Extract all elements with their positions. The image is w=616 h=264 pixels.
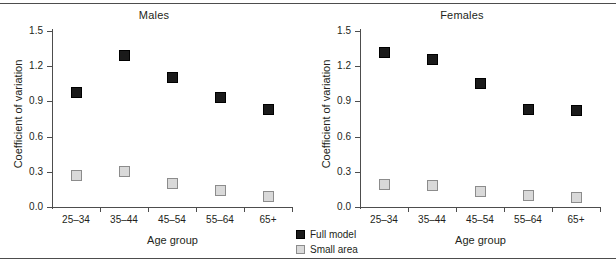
x-tick-label-females-4: 65+ bbox=[552, 214, 600, 225]
data-point-males-small-area-3 bbox=[215, 185, 226, 196]
panel-title-females: Females bbox=[308, 9, 616, 21]
data-point-males-full-model-2 bbox=[167, 72, 178, 83]
x-tick-label-females-0: 25–34 bbox=[360, 214, 408, 225]
plot-area-males bbox=[52, 31, 292, 207]
data-point-males-small-area-2 bbox=[167, 178, 178, 189]
y-tick-females-0 bbox=[355, 207, 360, 208]
legend-label-small-area: Small area bbox=[310, 244, 358, 255]
x-tick-females-5 bbox=[600, 207, 601, 212]
data-point-males-full-model-1 bbox=[119, 50, 130, 61]
filled-square-icon bbox=[296, 230, 305, 239]
data-point-males-full-model-0 bbox=[71, 87, 82, 98]
x-tick-label-males-0: 25–34 bbox=[52, 214, 100, 225]
x-tick-label-females-3: 55–64 bbox=[504, 214, 552, 225]
x-axis-line-males bbox=[52, 207, 293, 208]
legend-item-small-area: Small area bbox=[296, 243, 416, 256]
x-tick-males-4 bbox=[244, 207, 245, 212]
plot-area-females bbox=[360, 31, 600, 207]
x-axis-title-males: Age group bbox=[52, 234, 293, 246]
x-tick-label-females-1: 35–44 bbox=[408, 214, 456, 225]
figure: Males 1.5 1.2 0.9 0.6 0.3 0.0 25–34 35–4… bbox=[0, 0, 616, 264]
legend-label-full-model: Full model bbox=[310, 229, 356, 240]
data-point-males-small-area-4 bbox=[263, 191, 274, 202]
x-tick-label-males-3: 55–64 bbox=[196, 214, 244, 225]
x-tick-females-4 bbox=[552, 207, 553, 212]
data-point-females-small-area-1 bbox=[427, 180, 438, 191]
data-point-females-full-model-4 bbox=[571, 105, 582, 116]
data-point-males-small-area-0 bbox=[71, 170, 82, 181]
x-tick-females-1 bbox=[408, 207, 409, 212]
x-tick-label-females-2: 45–54 bbox=[456, 214, 504, 225]
y-axis-title-males: Coefficient of variation bbox=[12, 44, 24, 184]
data-point-females-small-area-3 bbox=[523, 190, 534, 201]
legend: Full model Small area bbox=[296, 228, 416, 258]
data-point-females-small-area-4 bbox=[571, 192, 582, 203]
data-point-males-full-model-3 bbox=[215, 92, 226, 103]
x-axis-line-females bbox=[360, 207, 601, 208]
panel-females: Females 1.5 1.2 0.9 0.6 0.3 0.0 25–34 35… bbox=[308, 0, 616, 264]
y-tick-label-males-0: 0.0 bbox=[10, 202, 43, 212]
data-point-females-small-area-0 bbox=[379, 179, 390, 190]
y-tick-males-0 bbox=[47, 207, 52, 208]
x-tick-label-males-2: 45–54 bbox=[148, 214, 196, 225]
x-tick-label-males-1: 35–44 bbox=[100, 214, 148, 225]
data-point-males-small-area-1 bbox=[119, 166, 130, 177]
y-tick-label-females-0: 0.0 bbox=[318, 202, 351, 212]
data-point-females-full-model-1 bbox=[427, 54, 438, 65]
x-tick-label-males-4: 65+ bbox=[244, 214, 292, 225]
x-tick-males-2 bbox=[148, 207, 149, 212]
y-axis-title-females: Coefficient of variation bbox=[320, 44, 332, 184]
open-square-icon bbox=[296, 245, 305, 254]
x-tick-females-3 bbox=[504, 207, 505, 212]
y-tick-label-females-5: 1.5 bbox=[318, 26, 351, 36]
y-tick-label-males-5: 1.5 bbox=[10, 26, 43, 36]
data-point-females-full-model-0 bbox=[379, 47, 390, 58]
panel-males: Males 1.5 1.2 0.9 0.6 0.3 0.0 25–34 35–4… bbox=[0, 0, 308, 264]
x-tick-males-5 bbox=[292, 207, 293, 212]
data-point-females-full-model-2 bbox=[475, 78, 486, 89]
data-point-males-full-model-4 bbox=[263, 104, 274, 115]
x-tick-males-1 bbox=[100, 207, 101, 212]
legend-item-full-model: Full model bbox=[296, 228, 416, 241]
panel-title-males: Males bbox=[0, 9, 308, 21]
x-tick-females-2 bbox=[456, 207, 457, 212]
data-point-females-full-model-3 bbox=[523, 104, 534, 115]
x-tick-males-3 bbox=[196, 207, 197, 212]
data-point-females-small-area-2 bbox=[475, 186, 486, 197]
